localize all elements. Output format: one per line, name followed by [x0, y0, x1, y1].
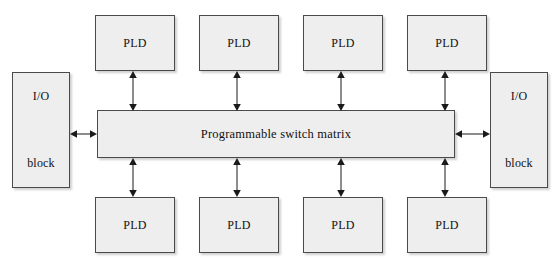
- pld-label: PLD: [227, 36, 250, 51]
- io-block-label-line1: I/O: [33, 89, 50, 104]
- io-block-right: I/O block: [490, 72, 548, 188]
- pld-block-top-4: PLD: [407, 15, 487, 71]
- connector-arrow-bottom-1: [127, 158, 139, 197]
- connector-arrow-bottom-2: [231, 158, 243, 197]
- pld-label: PLD: [123, 218, 146, 233]
- connector-arrow-top-3: [335, 71, 347, 111]
- pld-label: PLD: [435, 218, 458, 233]
- pld-label: PLD: [331, 36, 354, 51]
- io-block-left: I/O block: [12, 72, 70, 188]
- pld-label: PLD: [331, 218, 354, 233]
- connector-arrow-bottom-3: [335, 158, 347, 197]
- connector-arrow-top-4: [439, 71, 451, 111]
- programmable-switch-matrix-block: Programmable switch matrix: [97, 110, 455, 158]
- pld-label: PLD: [435, 36, 458, 51]
- io-block-label-line2: block: [505, 156, 533, 171]
- pld-block-top-1: PLD: [95, 15, 175, 71]
- pld-block-top-2: PLD: [199, 15, 279, 71]
- connector-arrow-right-io: [455, 128, 490, 140]
- pld-block-bottom-2: PLD: [199, 197, 279, 253]
- connector-arrow-left-io: [70, 128, 97, 140]
- connector-arrow-top-2: [231, 71, 243, 111]
- pld-block-bottom-1: PLD: [95, 197, 175, 253]
- io-block-label-line1: I/O: [511, 89, 528, 104]
- pld-block-bottom-3: PLD: [303, 197, 383, 253]
- connector-arrow-top-1: [127, 71, 139, 111]
- switch-matrix-label: Programmable switch matrix: [201, 127, 351, 142]
- connector-arrow-bottom-4: [439, 158, 451, 197]
- pld-label: PLD: [123, 36, 146, 51]
- io-block-label-line2: block: [27, 156, 55, 171]
- cpld-architecture-diagram: PLD PLD PLD PLD I/O block I/O block Prog…: [0, 0, 560, 268]
- pld-label: PLD: [227, 218, 250, 233]
- pld-block-top-3: PLD: [303, 15, 383, 71]
- pld-block-bottom-4: PLD: [407, 197, 487, 253]
